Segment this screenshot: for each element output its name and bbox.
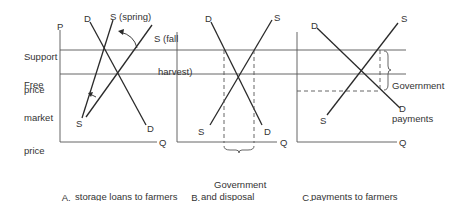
panel-b-demand-bottom: D <box>264 126 271 137</box>
panel-b-demand-top: D <box>205 13 212 24</box>
caption-b-letter: B. <box>191 192 200 201</box>
panel-a-supply-spring-label: S (spring) <box>110 11 151 22</box>
caption-a-letter: A. <box>62 192 71 201</box>
panel-a-p-label: P <box>57 21 63 32</box>
free-line3: price <box>24 145 53 156</box>
fall-line2: harvest) <box>154 66 192 77</box>
payments-line2: payments <box>392 113 444 124</box>
free-line1: Free <box>24 79 53 90</box>
panel-c-demand-top: D <box>311 20 318 31</box>
panel-b-brace <box>224 146 254 153</box>
caption-b-line2-wrap: and disposal <box>201 191 254 201</box>
panel-c-supply-top: S <box>401 13 407 24</box>
free-market-price-label: Free market price <box>24 57 53 167</box>
panel-b-supply-curve <box>210 20 272 125</box>
panel-a-demand-top: D <box>84 13 91 24</box>
panel-c-brace <box>384 51 391 90</box>
panel-a-q-label: Q <box>159 137 166 148</box>
caption-c-line2-wrap: payments to farmers <box>311 191 398 201</box>
panel-a-supply-fall-label: S (fall harvest) <box>154 11 192 88</box>
panel-a-supply-fall <box>86 25 152 117</box>
panel-c-q-label: Q <box>399 137 406 148</box>
panel-b-supply-bottom: S <box>198 126 204 137</box>
panel-a-supply-bottom: S <box>76 118 82 129</box>
panel-b-q-label: Q <box>280 137 287 148</box>
panel-a-demand-bottom: D <box>147 123 154 134</box>
government-payments-label: Government payments <box>392 58 444 135</box>
panel-c-supply-bottom: S <box>320 115 326 126</box>
panel-c-supply-curve <box>327 23 398 115</box>
payments-line1: Government <box>392 80 444 91</box>
free-line2: market <box>24 112 53 123</box>
arrowhead-upper <box>118 29 124 35</box>
panel-c-demand-curve <box>317 28 400 108</box>
fall-line1: S (fall <box>154 33 192 44</box>
panel-b-supply-top: S <box>274 12 280 23</box>
caption-a-line2-wrap: storage loans to farmers <box>75 191 177 201</box>
